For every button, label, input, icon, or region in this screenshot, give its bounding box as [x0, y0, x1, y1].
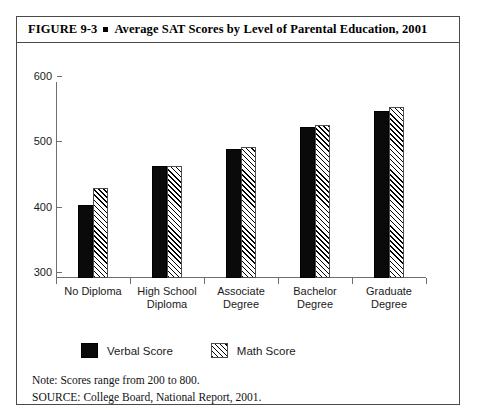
- x-axis-category-label-line: Degree: [341, 298, 437, 311]
- y-axis-tick-mark: [57, 272, 62, 273]
- bar: [315, 125, 330, 278]
- legend-swatch-icon: [81, 343, 98, 358]
- y-axis: [56, 82, 57, 278]
- note-text: Note: Scores range from 200 to 800.: [32, 374, 432, 386]
- y-axis-tick: 400: [22, 203, 62, 213]
- x-axis-tick-mark: [130, 278, 131, 284]
- bar-group: [300, 82, 330, 278]
- bar: [152, 166, 167, 278]
- bar: [241, 147, 256, 278]
- figure-frame: FIGURE 9-3 Average SAT Scores by Level o…: [16, 16, 460, 405]
- x-axis-category-label-line: Graduate: [341, 285, 437, 298]
- y-axis-tick-mark: [57, 141, 62, 142]
- chart-legend: Verbal ScoreMath Score: [81, 343, 334, 358]
- square-bullet-icon: [103, 27, 108, 32]
- x-axis-tick-mark: [426, 278, 427, 284]
- source-text: SOURCE: College Board, National Report, …: [32, 391, 432, 403]
- x-axis-tick-mark: [204, 278, 205, 284]
- y-axis-tick-mark: [57, 76, 62, 77]
- legend-item: Math Score: [211, 343, 296, 358]
- plot-area: 300400500600 No DiplomaHigh SchoolDiplom…: [56, 82, 426, 278]
- bar: [389, 107, 404, 278]
- footnotes: Note: Scores range from 200 to 800. SOUR…: [32, 374, 432, 408]
- figure-header: FIGURE 9-3 Average SAT Scores by Level o…: [17, 17, 459, 43]
- bar: [300, 127, 315, 278]
- bar: [78, 205, 93, 278]
- y-axis-tick: 600: [22, 72, 62, 82]
- legend-label: Verbal Score: [107, 345, 173, 357]
- page-title: Average SAT Scores by Level of Parental …: [114, 22, 427, 37]
- x-axis-tick-mark: [352, 278, 353, 284]
- bar: [374, 111, 389, 278]
- y-axis-tick-mark: [57, 207, 62, 208]
- legend-label: Math Score: [237, 345, 296, 357]
- bar: [226, 149, 241, 278]
- legend-swatch-icon: [211, 343, 228, 358]
- chart-area: 300400500600 No DiplomaHigh SchoolDiplom…: [17, 43, 459, 406]
- bar: [167, 166, 182, 278]
- x-axis-category-label: GraduateDegree: [341, 285, 437, 311]
- bar-group: [374, 82, 404, 278]
- y-axis-tick-label: 600: [34, 70, 52, 82]
- y-axis-tick: 300: [22, 268, 62, 278]
- legend-item: Verbal Score: [81, 343, 173, 358]
- bar-group: [78, 82, 108, 278]
- y-axis-tick-label: 400: [34, 201, 52, 213]
- bar-group: [226, 82, 256, 278]
- y-axis-tick-label: 500: [34, 135, 52, 147]
- x-axis-tick-mark: [56, 278, 57, 284]
- bar-group: [152, 82, 182, 278]
- y-axis-tick: 500: [22, 137, 62, 147]
- bar: [93, 188, 108, 278]
- y-axis-tick-label: 300: [34, 266, 52, 278]
- x-axis-tick-mark: [278, 278, 279, 284]
- figure-number: FIGURE 9-3: [28, 22, 97, 37]
